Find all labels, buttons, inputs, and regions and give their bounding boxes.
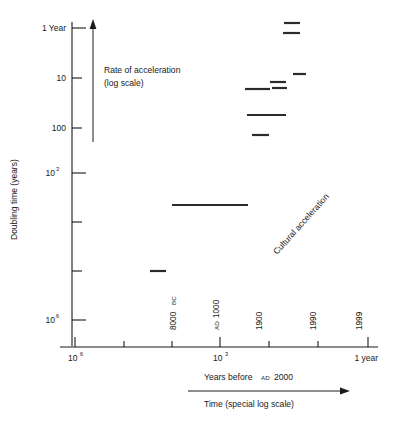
x-axis-group: 10 6 10 3 1 year — [60, 337, 378, 363]
chart-figure: 1 Year 10 100 10 3 10 6 Doubling time (y… — [0, 0, 393, 425]
y-axis-group: 1 Year 10 100 10 3 10 6 Doubling time (y… — [9, 22, 86, 346]
rate-label-line1: Rate of acceleration — [104, 65, 181, 75]
data-segments-group — [150, 23, 306, 271]
era-label-ad1000-caps: AD — [213, 321, 220, 330]
time-caption-above-caps: AD — [261, 374, 270, 381]
y-tick-label-100: 100 — [52, 123, 66, 133]
era-label-ad1000: AD 1000 — [212, 299, 221, 330]
x-tick-label-1000000: 10 6 — [68, 351, 83, 363]
rate-arrow-head-icon — [90, 19, 97, 29]
era-label-8000bc: 8000 BC — [169, 296, 178, 330]
y-tick-label-1000-base: 10 — [46, 168, 56, 178]
y-tick-label-1000: 10 3 — [46, 166, 60, 178]
y-axis-title: Doubling time (years) — [9, 159, 19, 240]
y-tick-label-1000-sup: 3 — [56, 166, 59, 172]
y-tick-label-1000000-base: 10 — [46, 315, 56, 325]
time-caption-above: Years before AD 2000 — [204, 372, 293, 382]
time-caption-above-a: Years before — [204, 372, 253, 382]
era-label-ad1000-number: 1000 — [212, 299, 221, 318]
era-labels-group: 8000 BC AD 1000 1900 1990 1999 — [169, 296, 364, 330]
x-tick-label-1000: 10 3 — [213, 351, 228, 363]
time-caption-below: Time (special log scale) — [204, 399, 294, 409]
time-caption-group: Years before AD 2000 Time (special log s… — [188, 372, 350, 409]
chart-svg: 1 Year 10 100 10 3 10 6 Doubling time (y… — [0, 0, 393, 425]
era-label-1990: 1990 — [309, 311, 318, 330]
y-tick-label-1000000-sup: 6 — [56, 313, 59, 319]
time-arrow-head-icon — [340, 388, 350, 395]
x-tick-label-1000-base: 10 — [213, 353, 223, 363]
x-tick-label-1000000-sup: 6 — [80, 351, 83, 357]
y-tick-label-1year: 1 Year — [42, 23, 66, 33]
era-label-1900: 1900 — [255, 311, 264, 330]
y-tick-label-10: 10 — [57, 73, 67, 83]
y-tick-label-1000000: 10 6 — [46, 313, 60, 325]
x-tick-label-1000000-base: 10 — [68, 353, 78, 363]
era-label-8000bc-caps: BC — [170, 296, 177, 305]
rate-label-line2: (log scale) — [104, 78, 144, 88]
era-label-8000bc-number: 8000 — [169, 311, 178, 330]
x-tick-label-1year: 1 year — [354, 353, 378, 363]
x-tick-label-1000-sup: 3 — [225, 351, 228, 357]
rate-of-acceleration-annotation: Rate of acceleration (log scale) — [90, 19, 181, 142]
cultural-acceleration-label: Cultural acceleration — [271, 191, 331, 256]
time-caption-above-b: 2000 — [274, 372, 293, 382]
era-label-1999: 1999 — [355, 311, 364, 330]
